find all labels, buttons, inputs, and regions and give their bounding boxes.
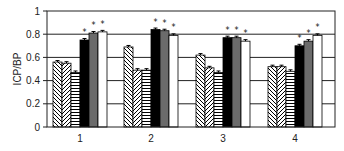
bar-series-1-cat-3	[196, 55, 205, 127]
y-tick-label: 1	[34, 6, 40, 17]
significance-star: *	[83, 28, 87, 37]
significance-star: *	[163, 19, 167, 28]
significance-star: *	[226, 26, 230, 35]
bar-chart: 00.20.40.60.81***1***2***3***4ICP/BP	[0, 0, 344, 151]
significance-star: *	[101, 20, 105, 29]
bar-series-6-cat-1	[98, 32, 107, 127]
x-category-label: 2	[148, 133, 154, 144]
significance-star: *	[92, 21, 96, 30]
significance-star: *	[235, 26, 239, 35]
bar-series-6-cat-4	[313, 35, 322, 127]
bar-series-2-cat-4	[277, 67, 286, 127]
bar-series-1-cat-2	[124, 47, 133, 127]
bar-series-4-cat-2	[151, 30, 160, 127]
bar-series-3-cat-1	[71, 72, 80, 127]
bar-series-4-cat-1	[80, 40, 89, 127]
significance-star: *	[154, 18, 158, 27]
y-tick-label: 0.4	[26, 75, 40, 86]
x-category-label: 3	[220, 133, 226, 144]
bar-series-6-cat-3	[241, 41, 250, 127]
significance-star: *	[307, 29, 311, 38]
bar-series-6-cat-2	[169, 35, 178, 127]
bar-series-5-cat-2	[160, 31, 169, 127]
y-tick-label: 0.2	[26, 98, 40, 109]
bars	[53, 28, 322, 127]
y-tick-label: 0.6	[26, 52, 40, 63]
significance-star: *	[244, 29, 248, 38]
bar-series-4-cat-3	[223, 38, 232, 127]
bar-series-5-cat-1	[89, 33, 98, 127]
bar-series-2-cat-3	[205, 68, 214, 127]
bar-series-2-cat-2	[133, 70, 142, 127]
bar-series-4-cat-4	[295, 46, 304, 127]
x-category-label: 4	[292, 133, 298, 144]
significance-star: *	[298, 34, 302, 43]
bar-series-5-cat-3	[232, 38, 241, 127]
significance-star: *	[316, 23, 320, 32]
bar-series-5-cat-4	[304, 41, 313, 127]
bar-series-1-cat-4	[268, 67, 277, 127]
y-tick-label: 0	[34, 122, 40, 133]
bar-series-3-cat-4	[286, 71, 295, 127]
bar-series-3-cat-3	[214, 72, 223, 127]
y-axis-title: ICP/BP	[12, 52, 23, 85]
bar-series-2-cat-1	[62, 63, 71, 127]
y-tick-label: 0.8	[26, 29, 40, 40]
significance-star: *	[172, 23, 176, 32]
bar-series-3-cat-2	[142, 70, 151, 127]
bar-series-1-cat-1	[53, 62, 62, 127]
x-category-label: 1	[77, 133, 83, 144]
